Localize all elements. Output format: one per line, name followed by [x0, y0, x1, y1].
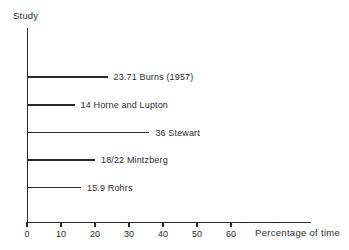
- x-axis-title: Percentage of time: [255, 227, 340, 238]
- bar-label: 18/22 Mintzberg: [101, 155, 168, 165]
- bar: [27, 76, 108, 78]
- x-axis-tick: [26, 222, 27, 227]
- x-axis-tick: [60, 222, 61, 227]
- x-axis-tick-label: 10: [56, 229, 66, 239]
- bar: [27, 187, 81, 189]
- bar: [27, 159, 95, 161]
- y-axis-line: [27, 28, 28, 223]
- bar: [27, 132, 149, 134]
- bar-label: 15.9 Rohrs: [87, 183, 133, 193]
- y-axis-title: Study: [13, 10, 38, 21]
- x-axis-tick-label: 20: [90, 229, 100, 239]
- x-axis-tick-label: 60: [226, 229, 236, 239]
- bar-label: 14 Horne and Lupton: [81, 100, 168, 110]
- x-axis-tick: [196, 222, 197, 227]
- x-axis-tick-label: 0: [24, 229, 29, 239]
- x-axis-tick: [162, 222, 163, 227]
- bar-label: 36 Stewart: [155, 128, 200, 138]
- bar: [27, 104, 75, 106]
- x-axis-line: [27, 222, 311, 223]
- bar-label: 23.71 Burns (1957): [114, 72, 194, 82]
- x-axis-tick-label: 50: [192, 229, 202, 239]
- bar-chart: Study 0102030405060 23.71 Burns (1957)14…: [0, 0, 349, 250]
- x-axis-tick: [230, 222, 231, 227]
- x-axis-tick: [128, 222, 129, 227]
- x-axis-tick-label: 30: [124, 229, 134, 239]
- x-axis-tick: [94, 222, 95, 227]
- x-axis-tick-label: 40: [158, 229, 168, 239]
